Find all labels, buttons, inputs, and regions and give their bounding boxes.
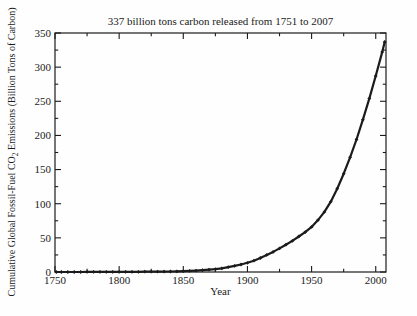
data-point-marker bbox=[156, 270, 160, 274]
data-point-marker bbox=[207, 268, 211, 272]
y-tick-label: 250 bbox=[35, 95, 52, 107]
emissions-series bbox=[54, 40, 386, 274]
x-tick-label: 1950 bbox=[301, 274, 324, 286]
y-tick-label: 150 bbox=[35, 163, 52, 175]
y-tick-label: 300 bbox=[35, 61, 52, 73]
x-axis-ticks: 175018001850190019502000 bbox=[44, 33, 387, 286]
data-point-marker bbox=[149, 270, 153, 274]
data-point-marker bbox=[214, 267, 218, 271]
y-tick-label: 100 bbox=[35, 198, 52, 210]
plot-frame bbox=[55, 33, 386, 272]
x-tick-label: 2000 bbox=[365, 274, 388, 286]
x-tick-label: 1800 bbox=[108, 274, 131, 286]
data-point-marker bbox=[143, 270, 147, 274]
plot-svg: 1750180018501900195020000501001502002503… bbox=[0, 0, 417, 316]
x-tick-label: 1900 bbox=[236, 274, 259, 286]
y-axis-ticks: 050100150200250300350 bbox=[35, 27, 387, 278]
data-point-marker bbox=[92, 270, 96, 274]
data-point-marker bbox=[85, 270, 89, 274]
data-point-marker bbox=[162, 270, 166, 274]
chart-title: 337 billion tons carbon released from 17… bbox=[55, 15, 386, 27]
data-point-marker bbox=[137, 270, 141, 274]
data-point-marker bbox=[66, 270, 70, 274]
y-axis-label: Cumulative Global Fossil-Fuel CO2 Emissi… bbox=[6, 8, 20, 297]
y-tick-label: 50 bbox=[40, 232, 52, 244]
data-point-marker bbox=[72, 270, 76, 274]
chart-figure: 1750180018501900195020000501001502002503… bbox=[0, 0, 417, 316]
data-point-marker bbox=[98, 270, 102, 274]
x-axis-label: Year bbox=[55, 285, 386, 297]
y-axis-label-text-2: Emissions (Billion Tons of Carbon) bbox=[6, 8, 17, 153]
emissions-line bbox=[56, 42, 384, 272]
y-axis-label-subscript: 2 bbox=[11, 152, 20, 156]
y-tick-label: 350 bbox=[35, 27, 52, 39]
y-tick-label: 0 bbox=[46, 266, 52, 278]
data-point-marker bbox=[130, 270, 134, 274]
x-tick-label: 1850 bbox=[172, 274, 195, 286]
y-tick-label: 200 bbox=[35, 129, 52, 141]
y-axis-label-text: Cumulative Global Fossil-Fuel CO bbox=[6, 156, 17, 296]
data-point-marker bbox=[79, 270, 83, 274]
